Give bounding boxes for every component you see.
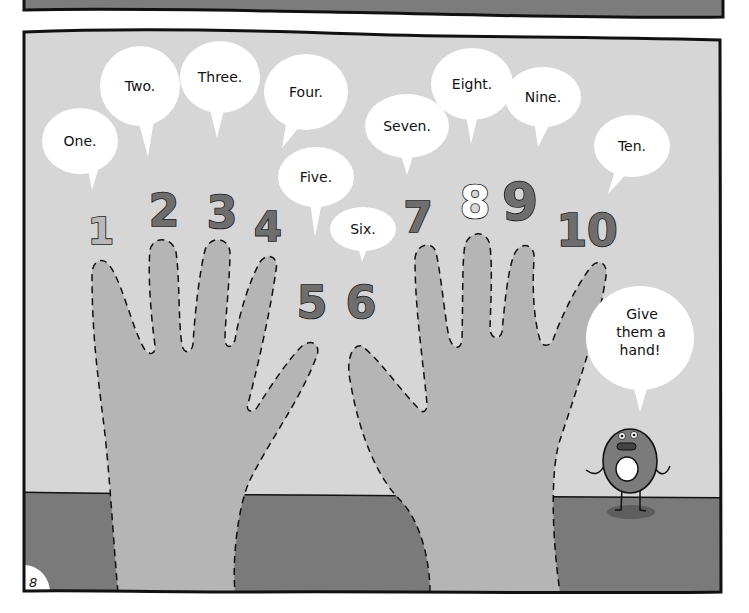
numeral-3: 3 [207, 187, 238, 238]
bubble-word: Five. [300, 169, 332, 185]
donut-shadow [607, 505, 655, 519]
bubble-word: Four. [289, 84, 323, 100]
numeral-8: 8 [460, 177, 491, 228]
page-number: 8 [29, 575, 37, 590]
bubble-word: Three. [197, 69, 243, 85]
numeral-10: 10 [556, 205, 617, 256]
numeral-2: 2 [149, 185, 180, 236]
bubble-word: Two. [124, 78, 155, 94]
numeral-6: 6 [346, 277, 377, 328]
comic-page: One.Two.Three.Four.Five.Six.Seven.Eight.… [0, 0, 749, 613]
numeral-5: 5 [297, 277, 328, 328]
numeral-4: 4 [254, 204, 282, 250]
bubble-word: Eight. [452, 76, 492, 92]
donut-speech-line-1: Give [626, 306, 658, 322]
donut-hole [616, 457, 638, 481]
bubble-word: Seven. [383, 118, 431, 134]
donut-speech-line-2: them a [616, 324, 666, 340]
bubble-word: Ten. [617, 138, 646, 154]
bubble-word: Nine. [525, 89, 561, 105]
numeral-9: 9 [502, 172, 538, 232]
numeral-7: 7 [403, 193, 432, 242]
bubble-word: One. [64, 133, 97, 149]
bubble-word: Six. [350, 221, 376, 237]
numeral-1: 1 [88, 209, 114, 253]
main-panel: One.Two.Three.Four.Five.Six.Seven.Eight.… [0, 0, 749, 613]
previous-panel-bottom [24, 0, 723, 17]
donut-speech-line-3: hand! [620, 342, 661, 358]
